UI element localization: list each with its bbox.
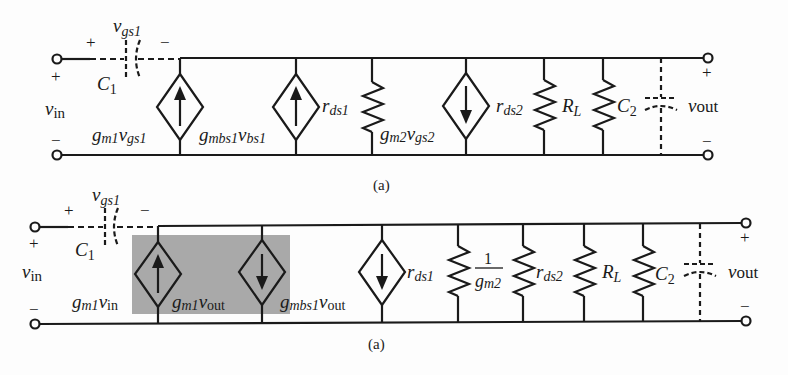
output-terminal-top: [704, 54, 713, 63]
vgs1-label: vgs1: [113, 15, 141, 39]
gm1vin-label: gm1vin: [72, 291, 118, 313]
c1-minus-label: −: [160, 33, 170, 52]
gm2vgs2-label: gm2vgs2: [380, 123, 435, 145]
vin-minus-label: −: [51, 131, 61, 150]
rl-label: RL: [561, 95, 582, 119]
vin-minus-label: −: [29, 300, 39, 319]
output-terminal-bottom: [742, 317, 751, 326]
resistor-rds2: [535, 58, 555, 155]
current-source-gm2vgs2: [443, 58, 489, 155]
vout-minus-label: −: [702, 132, 712, 151]
resistor-rl: [634, 224, 654, 321]
vin-plus-label: +: [29, 234, 39, 253]
circuit-figure: + − vgs1 C1 + vin − gm1vgs1 gmbs1vbs1 rd…: [0, 0, 788, 375]
vout-plus-label: +: [740, 228, 750, 247]
capacitor-c2: [645, 58, 677, 155]
vout-minus-label: −: [740, 297, 750, 316]
one-over-gm2-num: 1: [484, 250, 492, 267]
output-terminal-bottom: [704, 151, 713, 160]
resistor-rds1: [449, 225, 469, 322]
current-source-gmbs1vbs1: [273, 58, 319, 155]
input-terminal-top: [31, 223, 40, 232]
resistor-1-over-gm2: [514, 224, 534, 322]
c1-plus-label: +: [64, 201, 74, 220]
c1-minus-label: −: [140, 201, 150, 220]
capacitor-c2: [684, 224, 716, 321]
c1-label: C1: [75, 239, 95, 263]
rds2-label: rds2: [536, 261, 563, 284]
rds2-label: rds2: [496, 95, 523, 118]
rds1-label: rds1: [407, 261, 434, 284]
c1-plus-label: +: [86, 33, 96, 52]
resistor-rl: [594, 58, 614, 155]
rds1-label: rds1: [322, 95, 349, 118]
one-over-gm2-den: gm2: [475, 271, 501, 291]
vin-plus-label: +: [51, 67, 61, 86]
gmbs1vbs1-label: gmbs1vbs1: [199, 124, 266, 146]
vin-label: vin: [22, 261, 43, 284]
vin-label: vin: [45, 98, 66, 121]
input-terminal-top: [53, 55, 62, 64]
current-source-gm1vgs1: [157, 58, 203, 155]
current-source-gmbs1vout: [359, 225, 405, 323]
c2-label: C2: [617, 95, 637, 119]
input-terminal-bottom: [53, 151, 62, 160]
vout-label: vout: [728, 261, 758, 282]
c1-label: C1: [97, 73, 117, 97]
input-terminal-bottom: [31, 320, 40, 329]
output-terminal-top: [742, 219, 751, 228]
resistor-rds2: [575, 224, 595, 322]
caption-bottom: (a): [368, 336, 385, 353]
vout-label: vout: [688, 95, 718, 116]
c2-label: C2: [655, 263, 675, 287]
rl-label: RL: [601, 261, 622, 285]
caption-top: (a): [373, 177, 390, 194]
vgs1-label: vgs1: [92, 184, 120, 208]
gm1vgs1-label: gm1vgs1: [92, 124, 147, 146]
vout-plus-label: +: [702, 63, 712, 82]
